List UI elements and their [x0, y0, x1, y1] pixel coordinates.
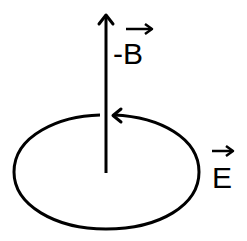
e-field-label: E — [212, 161, 232, 194]
field-diagram: -B E — [0, 0, 247, 241]
b-field-label: -B — [113, 37, 143, 70]
